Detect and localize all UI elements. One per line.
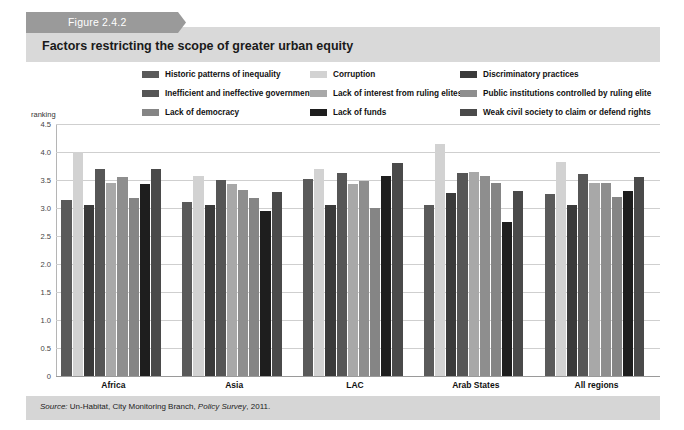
figure-page: Figure 2.4.2 Factors restricting the sco… (0, 0, 684, 430)
bar (106, 183, 116, 376)
bar (623, 191, 633, 376)
figure-header: Figure 2.4.2 Factors restricting the sco… (26, 6, 660, 62)
bar (348, 184, 358, 376)
bar (634, 177, 644, 376)
legend-item: Corruption (310, 70, 375, 79)
bar (272, 192, 282, 376)
bar (95, 169, 105, 376)
legend-item-label: Weak civil society to claim or defend ri… (483, 108, 651, 117)
y-axis-tick-label: 2.5 (40, 232, 51, 241)
legend-item: Discriminatory practices (460, 70, 579, 79)
bar (567, 205, 577, 376)
x-axis-category-label: Asia (182, 380, 286, 390)
legend-item: Weak civil society to claim or defend ri… (460, 108, 651, 117)
x-axis-category-label: Arab States (424, 380, 528, 390)
legend-swatch-icon (142, 90, 159, 97)
bar (129, 198, 139, 376)
bar (337, 173, 347, 376)
plot-area: 4.54.03.53.02.52.01.51.00.50AfricaAsiaLA… (56, 124, 660, 376)
legend-item: Lack of funds (310, 108, 386, 117)
bar-group (545, 124, 645, 376)
bar (556, 162, 566, 376)
bar (61, 200, 71, 376)
source-survey-name: Policy Survey (198, 402, 246, 411)
legend-swatch-icon (460, 71, 477, 78)
figure-title-band: Factors restricting the scope of greater… (26, 33, 660, 62)
legend-swatch-icon (142, 109, 159, 116)
legend-swatch-icon (142, 71, 159, 78)
source-body: Un-Habitat, City Monitoring Branch, (68, 402, 198, 411)
bar (117, 177, 127, 376)
legend-item: Historic patterns of inequality (142, 70, 281, 79)
bar (140, 184, 150, 376)
y-axis-tick-label: 4.0 (40, 148, 51, 157)
bar (249, 198, 259, 376)
bar (612, 197, 622, 376)
y-axis-title: ranking (31, 110, 56, 119)
legend-swatch-icon (460, 109, 477, 116)
bar (227, 184, 237, 376)
legend-item: Public institutions controlled by ruling… (460, 89, 651, 98)
bar (238, 190, 248, 376)
bar (182, 202, 192, 376)
bar-group (182, 124, 282, 376)
bar (193, 176, 203, 376)
bar (469, 172, 479, 376)
source-note: Source: Un-Habitat, City Monitoring Bran… (40, 402, 270, 411)
bar (545, 194, 555, 376)
bar (84, 205, 94, 376)
bar (491, 183, 501, 376)
y-axis-tick-label: 1.5 (40, 288, 51, 297)
bar (359, 181, 369, 376)
bar (446, 193, 456, 376)
bar (578, 174, 588, 376)
bar-group (61, 124, 161, 376)
legend-item-label: Public institutions controlled by ruling… (483, 89, 651, 98)
legend-item-label: Historic patterns of inequality (165, 70, 281, 79)
x-axis-category-label: All regions (545, 380, 649, 390)
bar (216, 180, 226, 376)
y-axis-tick-label: 3.5 (40, 176, 51, 185)
bar-group (303, 124, 403, 376)
figure-number-label: Figure 2.4.2 (68, 16, 126, 28)
legend-item-label: Corruption (333, 70, 375, 79)
legend-swatch-icon (310, 71, 327, 78)
bar (381, 176, 391, 376)
legend-swatch-icon (310, 90, 327, 97)
page-title: Factors restricting the scope of greater… (42, 39, 353, 53)
bar (151, 169, 161, 376)
bar (589, 183, 599, 376)
bar (424, 205, 434, 376)
legend-swatch-icon (310, 109, 327, 116)
legend-item: Lack of democracy (142, 108, 239, 117)
bar (370, 208, 380, 376)
legend-item-label: Lack of funds (333, 108, 386, 117)
bar (314, 169, 324, 376)
bar (435, 144, 445, 376)
y-axis-line (56, 124, 57, 376)
y-axis-tick-label: 1.0 (40, 316, 51, 325)
source-year: , 2011. (246, 402, 270, 411)
bar (601, 183, 611, 376)
bar (392, 163, 402, 376)
bar (260, 211, 270, 376)
legend-item: Inefficient and ineffective government (142, 89, 312, 98)
legend-swatch-icon (460, 90, 477, 97)
bar (73, 152, 83, 376)
chart-legend: Historic patterns of inequalityCorruptio… (142, 70, 672, 120)
x-axis-category-label: LAC (303, 380, 407, 390)
y-axis-tick-label: 2.0 (40, 260, 51, 269)
legend-item: Lack of interest from ruling elites (310, 89, 462, 98)
gridline (56, 376, 660, 377)
source-band: Source: Un-Habitat, City Monitoring Bran… (26, 396, 660, 420)
legend-item-label: Lack of democracy (165, 108, 239, 117)
bar-group (424, 124, 524, 376)
figure-number-tab: Figure 2.4.2 (26, 12, 186, 33)
bar (457, 173, 467, 376)
bar (303, 179, 313, 376)
source-prefix: Source: (40, 402, 68, 411)
x-axis-category-label: Africa (61, 380, 165, 390)
bar (205, 205, 215, 376)
legend-item-label: Discriminatory practices (483, 70, 579, 79)
bar (325, 205, 335, 376)
